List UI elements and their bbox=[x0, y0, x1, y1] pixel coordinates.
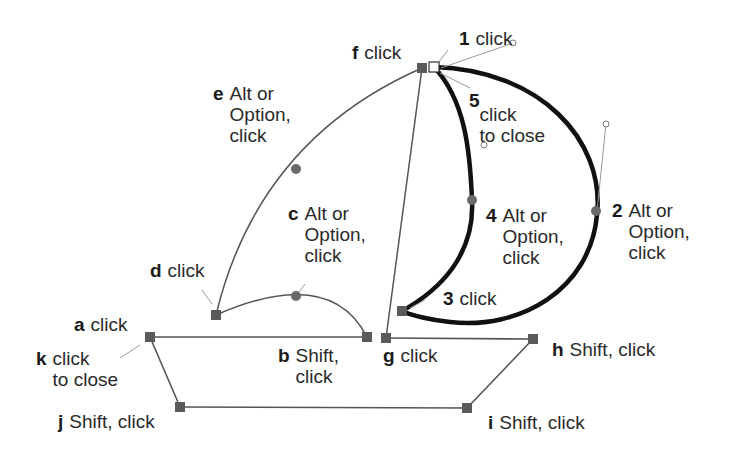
label-4: 4Alt orOption,click bbox=[486, 205, 564, 268]
label-5: 5clickto close bbox=[469, 90, 545, 146]
anchor-point-1-hollow bbox=[429, 62, 439, 72]
hull-path bbox=[150, 337, 533, 408]
label-3: 3click bbox=[443, 288, 497, 309]
label-g: gclick bbox=[383, 345, 438, 366]
label-b: bShift,click bbox=[278, 345, 339, 387]
label-2: 2Alt orOption,click bbox=[612, 200, 690, 263]
label-a: aclick bbox=[74, 314, 128, 335]
label-h: hShift, click bbox=[552, 339, 655, 360]
label-c: cAlt orOption,click bbox=[288, 203, 366, 266]
label-1: 1click bbox=[459, 28, 513, 49]
label-e: eAlt orOption,click bbox=[213, 83, 291, 146]
label-j: jShift, click bbox=[58, 411, 155, 432]
label-i: iShift, click bbox=[488, 412, 585, 433]
label-k: kclickto close bbox=[36, 348, 118, 390]
label-f: fclick bbox=[352, 42, 401, 63]
label-d: dclick bbox=[150, 260, 205, 281]
